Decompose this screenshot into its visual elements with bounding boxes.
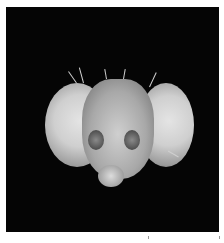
bristle xyxy=(123,69,126,79)
bristle xyxy=(104,69,107,79)
bristle xyxy=(79,67,84,83)
antenna-left xyxy=(88,130,104,150)
micrograph-image xyxy=(6,7,219,232)
tick-mark xyxy=(148,236,149,239)
tick-mark xyxy=(219,236,220,239)
head-face xyxy=(82,79,154,179)
antenna-right xyxy=(124,130,140,150)
proboscis xyxy=(98,165,124,187)
bristle xyxy=(68,71,77,83)
